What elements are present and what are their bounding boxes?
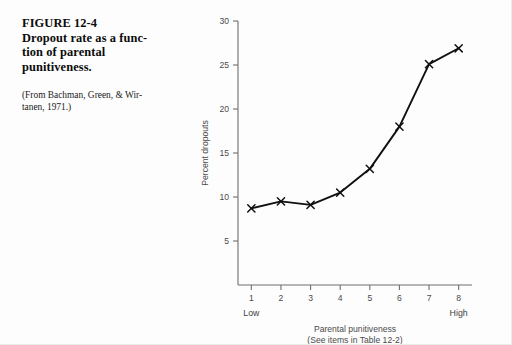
y-tick-label-15: 15 [219,148,229,158]
data-series-dropout-rate [248,45,463,212]
x-tick-label-7: 7 [427,293,432,303]
x-tick-label-2: 2 [279,293,284,303]
figure-source-credit: (From Bachman, Green, & Wir- tanen, 1971… [22,74,182,113]
x-tick-label-3: 3 [308,293,313,303]
chart-plot-area: 51015202530 12345678 LowHighParental pun… [190,0,512,345]
figure-caption-block: FIGURE 12-4 Dropout rate as a func- tion… [22,16,182,113]
figure-source-line-1: (From Bachman, Green, & Wir- [22,90,182,101]
y-tick-label-25: 25 [219,60,229,70]
data-point-x6 [396,123,403,130]
data-point-x5 [366,165,373,172]
x-tick-label-6: 6 [397,293,402,303]
x-axis-title-subnote: (See items in Table 12-2) [307,335,403,345]
y-tick-label-30: 30 [219,16,229,26]
figure-title: FIGURE 12-4 Dropout rate as a func- tion… [22,16,182,74]
figure-source-line-2: tanen, 1971.) [22,102,182,113]
data-point-x8 [455,45,462,52]
y-tick-label-20: 20 [219,104,229,114]
figure-title-line-1: FIGURE 12-4 [22,16,182,31]
figure-title-line-3: tion of parental [22,45,182,60]
line-chart: 51015202530 12345678 LowHighParental pun… [190,0,512,345]
x-axis: 12345678 [238,285,472,303]
y-tick-label-5: 5 [224,236,229,246]
x-tick-label-5: 5 [367,293,372,303]
y-axis: 51015202530 [219,16,238,285]
y-tick-label-10: 10 [219,192,229,202]
x-tick-label-4: 4 [338,293,343,303]
x-axis-high-label: High [450,308,468,318]
x-axis-low-label: Low [243,308,260,318]
data-point-x4 [337,189,344,196]
series-polyline [251,48,458,208]
axis-labels: LowHighParental punitiveness(See items i… [200,120,468,345]
y-axis-title: Percent dropouts [200,120,210,185]
x-tick-label-8: 8 [456,293,461,303]
x-tick-label-1: 1 [249,293,254,303]
figure-panel: FIGURE 12-4 Dropout rate as a func- tion… [0,0,512,345]
figure-title-line-4: punitiveness. [22,60,182,75]
data-point-x7 [425,61,432,68]
x-axis-title: Parental punitiveness [314,324,396,334]
figure-title-line-2: Dropout rate as a func- [22,31,182,46]
